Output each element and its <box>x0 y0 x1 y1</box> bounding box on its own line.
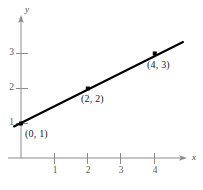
point-label-2-2: (2, 2) <box>81 94 104 104</box>
point-label-4-3: (4, 3) <box>147 60 170 70</box>
y-axis-ticks <box>16 54 28 124</box>
x-tick-label-2: 2 <box>82 166 94 176</box>
point-label-0-1: (0, 1) <box>25 129 48 139</box>
data-line <box>14 42 183 127</box>
x-tick-label-4: 4 <box>149 166 161 176</box>
x-axis-label: x <box>192 153 196 162</box>
y-tick-label-2: 2 <box>2 83 14 93</box>
data-point-4-3 <box>153 52 157 56</box>
graph-figure: y x 3 2 1 1 2 3 4 (0, 1) (2, 2) (4, 3) <box>0 0 203 190</box>
y-tick-label-3: 3 <box>2 48 14 58</box>
y-axis-label: y <box>25 5 29 14</box>
data-point-2-2 <box>86 87 90 91</box>
data-point-0-1 <box>19 122 23 126</box>
x-tick-label-1: 1 <box>49 166 61 176</box>
x-tick-label-3: 3 <box>115 166 127 176</box>
y-tick-label-1: 1 <box>2 118 14 128</box>
